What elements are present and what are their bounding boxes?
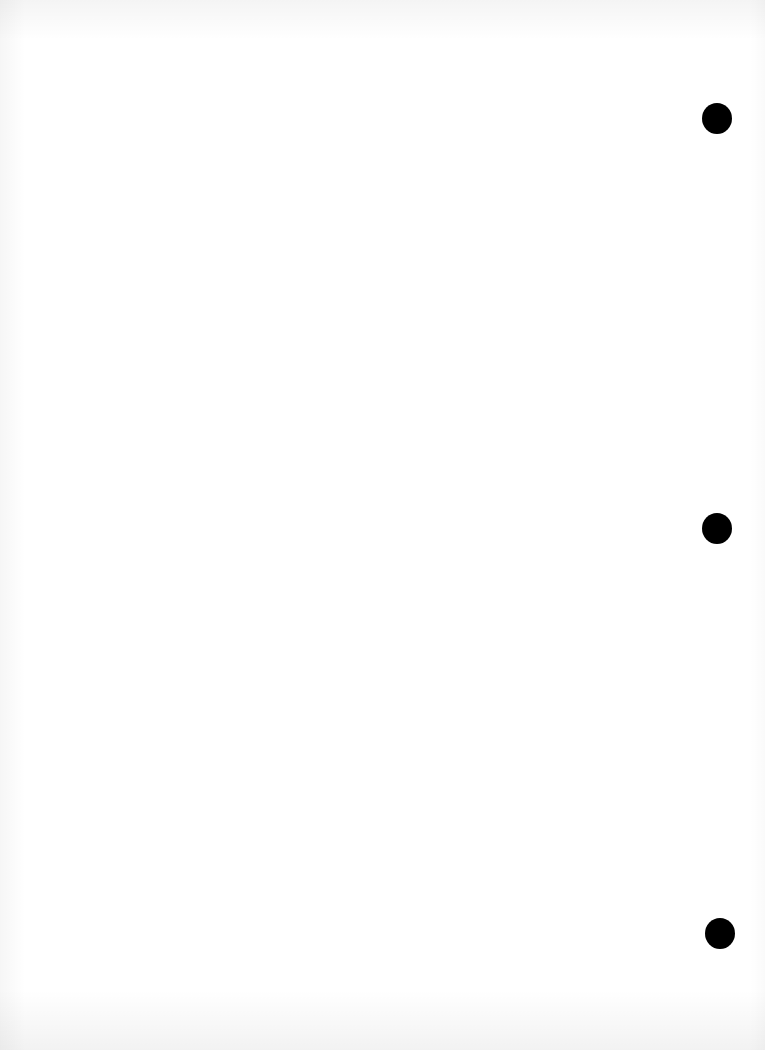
page-body: [40, 40, 685, 1010]
punch-hole-bottom: [705, 918, 735, 949]
punch-hole-top: [702, 103, 732, 134]
punch-hole-middle: [702, 513, 732, 544]
blank-paper-sheet: [0, 0, 765, 1050]
